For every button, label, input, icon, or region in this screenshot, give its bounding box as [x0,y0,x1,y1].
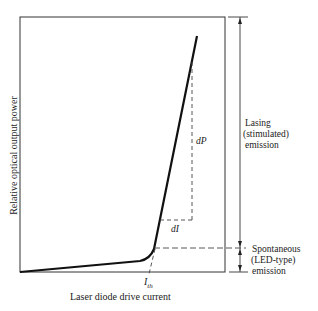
lasing-line-2: (stimulated) [243,129,289,140]
ith-sub: th [147,282,152,290]
threshold-current-label: Ith [144,276,153,290]
plot-frame [20,17,225,272]
lasing-line-3: emission [245,140,279,151]
pi-curve [20,36,197,272]
dp-label: dP [196,136,207,147]
spontaneous-line-1: Spontaneous [252,244,301,255]
arrow-down-icon [238,241,242,247]
arrow-up-icon [238,249,242,255]
spontaneous-line-2: (LED-type) [251,255,295,266]
arrow-down-icon [238,265,242,271]
lasing-line-1: Lasing [245,118,271,129]
arrow-up-icon [238,18,242,24]
spontaneous-line-3: emission [252,266,286,277]
di-label: dI [171,224,179,235]
y-axis-label: Relative optical output power [8,91,19,221]
x-axis-label: Laser diode drive current [70,291,171,302]
